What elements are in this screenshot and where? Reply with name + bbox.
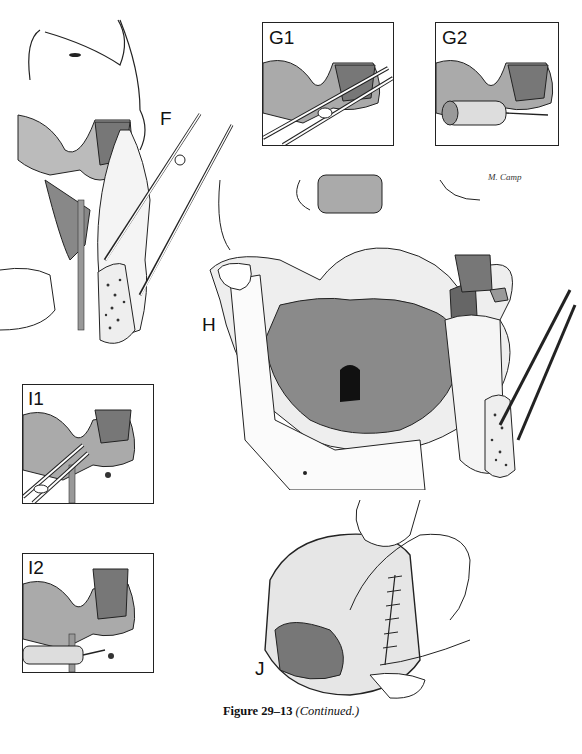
panel-label-h: H [202,314,216,336]
panel-i2: I2 [22,553,154,673]
figure-continued: (Continued.) [296,704,360,718]
panel-h-illustration [200,170,582,490]
panel-h: H [200,170,582,490]
panel-label-i2: I2 [28,557,44,579]
panel-label-f: F [160,108,172,130]
panel-g2: G2 [435,22,559,146]
panel-label-g1-text: G1 [269,27,294,48]
panel-label-j: J [255,658,265,680]
panel-i1: I1 [22,384,154,504]
panel-g1: G1 [262,22,394,146]
panel-label-i1: I1 [28,388,44,410]
panel-label-g2: G2 [442,27,467,49]
figure-number: Figure 29–13 [223,704,293,718]
panel-j: J [250,500,480,700]
panel-label-g1: G1 [269,27,294,49]
figure-caption: Figure 29–13 (Continued.) [0,704,582,719]
panel-j-illustration [250,500,480,700]
